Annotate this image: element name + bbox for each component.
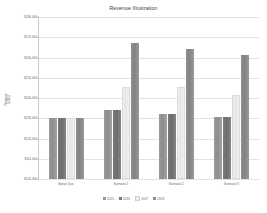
x-axis-label: Status Quo bbox=[38, 182, 93, 186]
bar-2018-scenario-2[interactable] bbox=[186, 49, 194, 179]
legend-swatch-icon bbox=[103, 197, 106, 200]
bar-2015-scenario-1[interactable] bbox=[104, 110, 112, 179]
x-axis-label: Scenario 1 bbox=[93, 182, 148, 186]
bar-2015-scenario-2[interactable] bbox=[159, 114, 167, 179]
bar-2018-scenario-1[interactable] bbox=[131, 43, 139, 180]
legend-item-2018[interactable]: 2018 bbox=[153, 197, 164, 201]
y-axis-tick-label: $130,000 bbox=[24, 116, 37, 120]
y-axis-title: Revenue (USD) bbox=[5, 82, 12, 116]
legend-label: 2016 bbox=[123, 197, 130, 201]
y-axis-tick-label: $140,000 bbox=[24, 96, 37, 100]
legend-swatch-icon bbox=[119, 197, 122, 200]
x-axis-label: Scenario 2 bbox=[149, 182, 204, 186]
bar-2018-status-quo[interactable] bbox=[76, 118, 84, 179]
y-axis-tick-label: $150,000 bbox=[24, 76, 37, 80]
bar-2017-scenario-2[interactable] bbox=[177, 87, 185, 179]
revenue-illustration-chart: Revenue Illustration Revenue (USD) $180,… bbox=[0, 0, 267, 213]
chart-title: Revenue Illustration bbox=[0, 5, 267, 11]
y-axis-tick-label: $120,000 bbox=[24, 137, 37, 141]
legend-label: 2017 bbox=[141, 197, 148, 201]
bar-groups bbox=[39, 17, 259, 179]
legend-item-2015[interactable]: 2015 bbox=[103, 197, 114, 201]
bar-2015-status-quo[interactable] bbox=[49, 118, 57, 179]
bar-2017-status-quo[interactable] bbox=[67, 118, 75, 179]
y-axis-tick-label: $110,000 bbox=[25, 157, 37, 161]
bar-2015-scenario-3[interactable] bbox=[214, 117, 222, 179]
bar-2018-scenario-3[interactable] bbox=[241, 55, 249, 179]
legend-swatch-icon bbox=[153, 197, 156, 200]
bar-group bbox=[214, 17, 249, 179]
bar-2017-scenario-1[interactable] bbox=[122, 87, 130, 179]
bar-group bbox=[49, 17, 84, 179]
y-axis-tick-label: $160,000 bbox=[24, 56, 37, 60]
chart-legend: 2015201620172018 bbox=[0, 196, 267, 201]
bar-group bbox=[104, 17, 139, 179]
x-axis-label: Scenario 3 bbox=[204, 182, 259, 186]
legend-item-2016[interactable]: 2016 bbox=[119, 197, 130, 201]
bar-2016-status-quo[interactable] bbox=[58, 118, 66, 179]
bar-2016-scenario-2[interactable] bbox=[168, 114, 176, 179]
legend-item-2017[interactable]: 2017 bbox=[135, 196, 148, 201]
y-axis-tick-label: $180,000 bbox=[24, 15, 37, 19]
legend-label: 2018 bbox=[157, 197, 164, 201]
y-axis-tick-label: $100,000 bbox=[24, 177, 37, 181]
bar-group bbox=[159, 17, 194, 179]
bar-2017-scenario-3[interactable] bbox=[232, 95, 240, 179]
x-axis-labels: Status QuoScenario 1Scenario 2Scenario 3 bbox=[38, 182, 259, 186]
plot-area: $180,000$170,000$160,000$150,000$140,000… bbox=[38, 17, 259, 180]
legend-swatch-icon bbox=[135, 196, 140, 201]
y-axis-tick-label: $170,000 bbox=[24, 35, 37, 39]
legend-label: 2015 bbox=[107, 197, 114, 201]
gridline bbox=[39, 179, 259, 180]
bar-2016-scenario-1[interactable] bbox=[113, 110, 121, 179]
bar-2016-scenario-3[interactable] bbox=[223, 117, 231, 179]
